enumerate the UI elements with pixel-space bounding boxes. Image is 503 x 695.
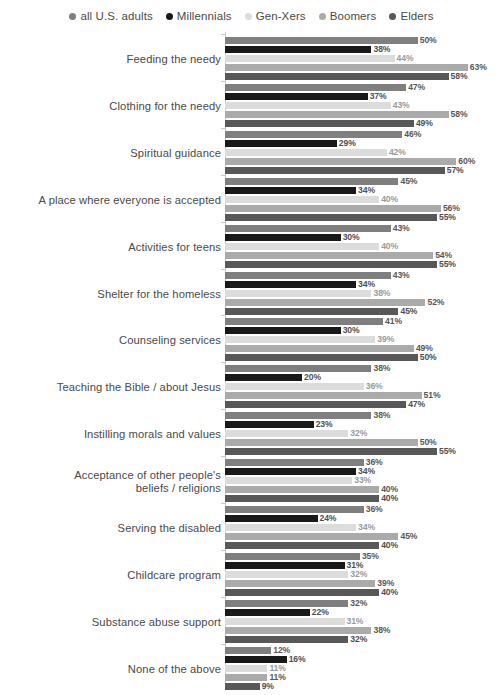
bar-value-label: 34%: [358, 279, 375, 290]
bar[interactable]: [225, 430, 348, 437]
bar[interactable]: [225, 683, 260, 690]
category-label: Activities for teens: [128, 241, 221, 254]
bar[interactable]: [225, 477, 352, 484]
bar-value-label: 45%: [400, 306, 417, 317]
bar[interactable]: [225, 562, 345, 569]
bar[interactable]: [225, 55, 395, 62]
bar[interactable]: [225, 120, 414, 127]
bar[interactable]: [225, 589, 379, 596]
bar[interactable]: [225, 336, 375, 343]
bar[interactable]: [225, 609, 310, 616]
bar[interactable]: [225, 46, 371, 53]
bar[interactable]: [225, 600, 348, 607]
chart-container: all U.S. adultsMillennialsGen-XersBoomer…: [0, 0, 503, 695]
bar[interactable]: [225, 412, 371, 419]
bar[interactable]: [225, 674, 267, 681]
bar[interactable]: [225, 196, 379, 203]
bar-value-label: 36%: [366, 504, 383, 515]
bar[interactable]: [225, 468, 356, 475]
bar[interactable]: [225, 515, 318, 522]
axis-tick: [221, 550, 225, 551]
bar[interactable]: [225, 93, 368, 100]
bar[interactable]: [225, 131, 402, 138]
bar[interactable]: [225, 354, 418, 361]
bar[interactable]: [225, 383, 364, 390]
bar[interactable]: [225, 636, 348, 643]
bar[interactable]: [225, 580, 375, 587]
bar[interactable]: [225, 553, 360, 560]
bar[interactable]: [225, 214, 437, 221]
bar-value-label: 40%: [381, 587, 398, 598]
bar[interactable]: [225, 73, 449, 80]
bar[interactable]: [225, 627, 371, 634]
legend-item-label: Boomers: [330, 11, 377, 23]
bar[interactable]: [225, 533, 398, 540]
bar[interactable]: [225, 64, 468, 71]
legend-swatch-icon: [389, 13, 396, 20]
bar-value-label: 20%: [304, 372, 321, 383]
bar[interactable]: [225, 486, 379, 493]
bar[interactable]: [225, 111, 449, 118]
bar[interactable]: [225, 524, 356, 531]
bar-value-label: 49%: [416, 118, 433, 129]
bar-value-label: 31%: [347, 616, 364, 627]
legend-item-label: Elders: [400, 11, 433, 23]
bar[interactable]: [225, 102, 391, 109]
axis-tick: [221, 362, 225, 363]
bar-value-label: 36%: [366, 381, 383, 392]
bar-value-label: 51%: [424, 390, 441, 401]
bar[interactable]: [225, 374, 302, 381]
bar[interactable]: [225, 261, 437, 268]
bar-value-label: 43%: [393, 100, 410, 111]
bar-value-label: 45%: [400, 176, 417, 187]
bar[interactable]: [225, 149, 387, 156]
bar[interactable]: [225, 571, 348, 578]
bar[interactable]: [225, 495, 379, 502]
bar[interactable]: [225, 327, 341, 334]
bar[interactable]: [225, 345, 414, 352]
bar[interactable]: [225, 506, 364, 513]
bar[interactable]: [225, 318, 383, 325]
bar[interactable]: [225, 272, 391, 279]
legend-item[interactable]: Elders: [389, 11, 433, 23]
bar[interactable]: [225, 542, 379, 549]
bar[interactable]: [225, 401, 406, 408]
bar[interactable]: [225, 459, 364, 466]
bar[interactable]: [225, 421, 314, 428]
bar-value-label: 40%: [381, 241, 398, 252]
bar[interactable]: [225, 290, 371, 297]
bar[interactable]: [225, 84, 406, 91]
bar[interactable]: [225, 167, 445, 174]
bar[interactable]: [225, 618, 345, 625]
legend-item[interactable]: all U.S. adults: [69, 11, 152, 23]
bar-value-label: 24%: [320, 513, 337, 524]
bar[interactable]: [225, 281, 356, 288]
bar[interactable]: [225, 647, 271, 654]
bar[interactable]: [225, 665, 267, 672]
bar[interactable]: [225, 439, 418, 446]
bar[interactable]: [225, 308, 398, 315]
bar[interactable]: [225, 234, 341, 241]
bar[interactable]: [225, 243, 379, 250]
bar[interactable]: [225, 37, 418, 44]
bar[interactable]: [225, 252, 433, 259]
bar[interactable]: [225, 392, 422, 399]
bar[interactable]: [225, 365, 371, 372]
legend-item[interactable]: Boomers: [319, 11, 377, 23]
legend-item[interactable]: Gen-Xers: [245, 11, 306, 23]
bar[interactable]: [225, 448, 437, 455]
bar[interactable]: [225, 225, 391, 232]
category-label: A place where everyone is accepted: [38, 194, 221, 207]
bar[interactable]: [225, 205, 441, 212]
axis-tick: [221, 503, 225, 504]
bar[interactable]: [225, 140, 337, 147]
bar[interactable]: [225, 178, 398, 185]
bar-value-label: 35%: [362, 551, 379, 562]
bar[interactable]: [225, 187, 356, 194]
bar-value-label: 55%: [439, 212, 456, 223]
legend-item[interactable]: Millennials: [166, 11, 232, 23]
bar[interactable]: [225, 299, 425, 306]
legend-item-label: Millennials: [177, 11, 232, 23]
bar[interactable]: [225, 656, 287, 663]
bar[interactable]: [225, 158, 456, 165]
